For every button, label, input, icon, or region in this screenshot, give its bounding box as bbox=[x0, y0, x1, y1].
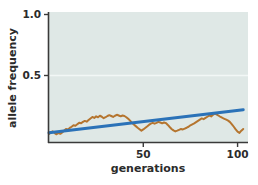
y-axis-title: allele frequency bbox=[6, 28, 19, 128]
allele-frequency-chart: 501000.51.0 generations allele frequency bbox=[0, 0, 258, 185]
y-tick-label-1.0: 1.0 bbox=[22, 8, 41, 20]
x-tick-label-100: 100 bbox=[227, 148, 249, 160]
x-tick-label-50: 50 bbox=[136, 148, 151, 160]
y-tick-label-0.5: 0.5 bbox=[22, 69, 41, 81]
x-axis-title: generations bbox=[111, 162, 186, 175]
chart-figure: 501000.51.0 generations allele frequency bbox=[0, 0, 258, 185]
